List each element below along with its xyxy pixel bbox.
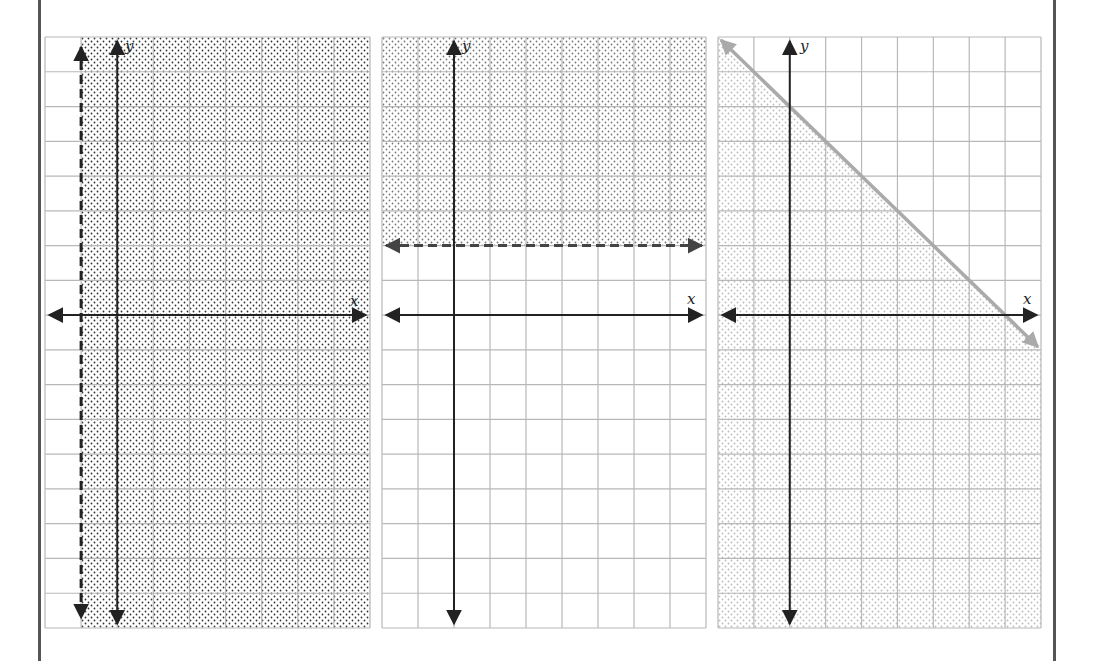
graph-3-x-axis-label: x <box>1023 292 1031 307</box>
graph-3-inequality: y x <box>718 37 1043 628</box>
graph-1-x-axis-label: x <box>350 294 358 309</box>
shaded-region <box>718 37 1041 628</box>
graph-1-y-axis-label: y <box>125 39 133 54</box>
graph-1-plot <box>45 37 370 628</box>
left-border-line <box>38 0 41 661</box>
right-border-line <box>1053 0 1056 661</box>
graph-2-y-axis-label: y <box>462 39 470 54</box>
graph-1-inequality: y x <box>45 37 370 628</box>
graph-2-x-axis-label: x <box>687 292 695 307</box>
graph-3-plot <box>718 37 1041 628</box>
graph-3-y-axis-label: y <box>800 39 808 54</box>
graph-2-inequality: y x <box>382 37 707 628</box>
graph-2-plot <box>382 37 706 628</box>
